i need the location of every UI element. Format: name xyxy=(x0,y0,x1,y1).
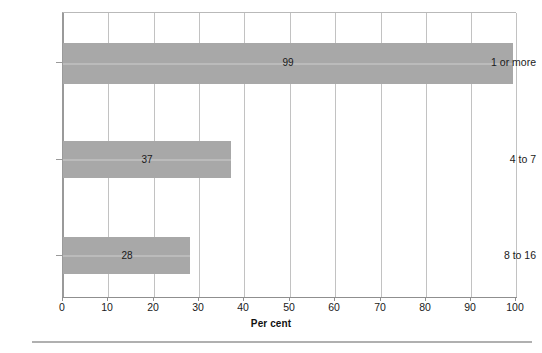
xtick-label-0: 0 xyxy=(59,301,65,313)
ytick-label-4-to-7: 4 to 7 xyxy=(486,153,542,165)
xtick-label-80: 80 xyxy=(419,301,431,313)
plot-area: 99 37 28 xyxy=(62,12,516,297)
bar-chart: 99 37 28 1 or more 4 to 7 8 to 16 0 10 2… xyxy=(0,0,542,353)
xtick-label-40: 40 xyxy=(237,301,249,313)
xtick-label-70: 70 xyxy=(374,301,386,313)
footer-divider xyxy=(32,341,532,343)
ytick-mark-8-to-16 xyxy=(56,255,62,256)
ytick-label-8-to-16: 8 to 16 xyxy=(486,249,542,261)
xtick-label-50: 50 xyxy=(283,301,295,313)
bar-value-4-to-7: 37 xyxy=(141,155,152,165)
ytick-mark-1-or-more xyxy=(56,62,62,63)
bar-value-1-or-more: 99 xyxy=(282,58,293,68)
xtick-label-10: 10 xyxy=(101,301,113,313)
xtick-label-60: 60 xyxy=(328,301,340,313)
x-axis-title: Per cent xyxy=(0,318,542,329)
xtick-label-20: 20 xyxy=(147,301,159,313)
ytick-label-1-or-more: 1 or more xyxy=(486,56,542,68)
xtick-label-30: 30 xyxy=(192,301,204,313)
xtick-label-90: 90 xyxy=(464,301,476,313)
ytick-mark-4-to-7 xyxy=(56,159,62,160)
bar-value-8-to-16: 28 xyxy=(121,251,132,261)
xtick-label-100: 100 xyxy=(506,301,524,313)
